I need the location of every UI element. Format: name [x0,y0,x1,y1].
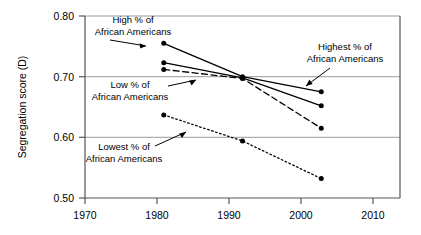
data-point [161,60,166,65]
data-point [319,176,324,181]
xtick-label-2010: 2010 [361,209,385,221]
annotation-low-line2: African Americans [92,91,169,102]
annotation-lowest-line1: Lowest % of [98,141,150,152]
annotation-lowest-line2: African Americans [86,153,163,164]
segregation-score-chart: 0.80 0.70 0.60 0.50 1970 1980 1990 2000 … [0,0,421,235]
xtick-label-1990: 1990 [217,209,241,221]
xtick-label-2000: 2000 [289,209,313,221]
y-axis-title: Segregation score (D) [16,56,28,159]
annotation-high-line2: African Americans [95,26,172,37]
data-point [240,76,245,81]
ytick-label-0-50: 0.50 [54,192,75,204]
data-point [240,138,245,143]
xtick-label-1980: 1980 [145,209,169,221]
data-point [319,126,324,131]
ytick-label-0-80: 0.80 [54,10,75,22]
chart-svg: 0.80 0.70 0.60 0.50 1970 1980 1990 2000 … [0,0,421,235]
data-point [161,67,166,72]
ytick-label-0-60: 0.60 [54,131,75,143]
data-point [161,112,166,117]
data-point [319,103,324,108]
annotation-highest-line2: African Americans [307,53,384,64]
xtick-label-1970: 1970 [73,209,97,221]
annotation-low-line1: Low % of [110,79,149,90]
annotation-highest-line1: Highest % of [318,41,372,52]
data-point [319,89,324,94]
ytick-label-0-70: 0.70 [54,71,75,83]
data-point [161,41,166,46]
annotation-high-line1: High % of [112,14,154,25]
